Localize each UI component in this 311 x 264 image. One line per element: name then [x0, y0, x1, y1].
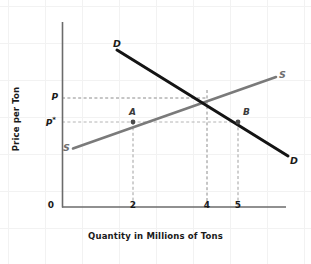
point-B-label: B — [243, 107, 250, 117]
supply-label-right: S — [279, 69, 286, 80]
y-axis-title: Price per Ton — [11, 64, 21, 174]
y-label-P-text: P — [51, 92, 58, 102]
demand-label-bottom: D — [290, 155, 298, 166]
supply-label-left: S — [63, 142, 70, 153]
y-label-equilibrium-price: P — [36, 92, 58, 102]
point-A-marker — [131, 120, 136, 125]
y-label-Pstar-superscript: * — [52, 116, 56, 124]
supply-demand-chart: Quantity in Millions of Tons Price per T… — [0, 0, 311, 264]
x-tick-label-4: 4 — [197, 200, 217, 210]
x-tick-label-5: 5 — [228, 200, 248, 210]
y-label-price-ceiling: P* — [34, 116, 56, 128]
x-tick-label-0: 0 — [41, 200, 61, 210]
x-axis-title: Quantity in Millions of Tons — [0, 231, 311, 241]
demand-curve — [117, 50, 288, 156]
point-A-label: A — [129, 107, 136, 117]
x-tick-label-2: 2 — [123, 200, 143, 210]
plot-area — [0, 0, 311, 264]
demand-label-top: D — [113, 38, 121, 49]
point-B-marker — [236, 120, 241, 125]
